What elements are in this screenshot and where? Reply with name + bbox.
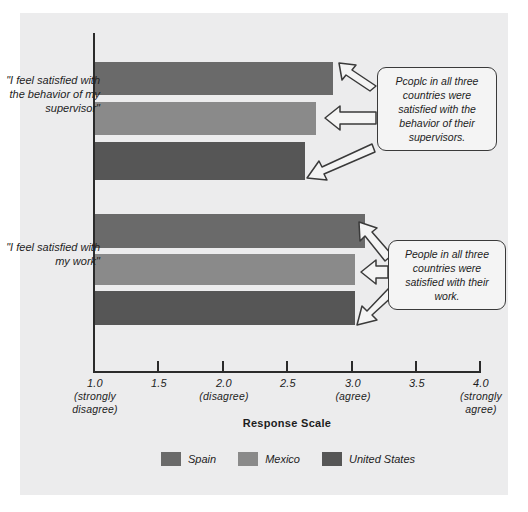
annotation-work: People in all three countries were satis… [388, 240, 506, 310]
arrow-work-mexico [361, 260, 388, 284]
x-tick-value-2-5: 2.5 [280, 377, 296, 389]
x-tick-1-0 [93, 361, 95, 372]
bar-work-united-states [95, 291, 355, 325]
x-tick-3-0 [351, 361, 353, 372]
x-tick-value-3-5: 3.5 [409, 377, 425, 389]
x-tick-value-2-0: 2.0 [216, 377, 232, 389]
legend-item-mexico: Mexico [238, 452, 300, 466]
x-tick-1-5 [157, 361, 159, 372]
legend-swatch-united-states [322, 452, 342, 466]
arrow-supervisor-mexico [325, 106, 376, 130]
x-tick-value-1-0: 1.0 [87, 377, 103, 389]
arrow-supervisor-united-states [307, 144, 375, 180]
legend-label-spain: Spain [188, 453, 216, 465]
legend-item-united-states: United States [322, 452, 415, 466]
x-tick-value-3-0: 3.0 [345, 377, 361, 389]
chart-legend: Spain Mexico United States [93, 452, 483, 466]
x-tick-label-2-5: 2.5 [253, 377, 323, 390]
x-tick-value-1-5: 1.5 [151, 377, 167, 389]
x-tick-sub-4-0: (strongly agree) [446, 390, 516, 415]
plot-area: 1.0 (strongly disagree) 1.5 2.0 (disagre… [0, 0, 528, 512]
bar-work-spain [95, 214, 365, 248]
x-tick-label-1-0: 1.0 (strongly disagree) [60, 377, 130, 415]
x-tick-2-0 [222, 361, 224, 372]
legend-label-united-states: United States [349, 453, 415, 465]
x-tick-4-0 [479, 361, 481, 372]
x-tick-label-3-5: 3.5 [382, 377, 452, 390]
x-tick-sub-1-0: (strongly disagree) [60, 390, 130, 415]
legend-item-spain: Spain [161, 452, 216, 466]
x-axis-title: Response Scale [93, 417, 481, 429]
x-tick-value-4-0: 4.0 [473, 377, 489, 389]
bar-supervisor-mexico [95, 102, 316, 135]
x-tick-label-4-0: 4.0 (strongly agree) [446, 377, 516, 415]
legend-swatch-spain [161, 452, 181, 466]
x-tick-label-2-0: 2.0 (disagree) [189, 377, 259, 403]
x-tick-label-3-0: 3.0 (agree) [318, 377, 388, 403]
bar-supervisor-spain [95, 62, 333, 95]
x-tick-3-5 [415, 361, 417, 372]
legend-swatch-mexico [238, 452, 258, 466]
category-label-work: "I feel satisfied with my work" [0, 240, 100, 268]
bar-work-mexico [95, 254, 355, 285]
annotation-supervisor: Pcoplc in all three countries were satis… [377, 67, 497, 151]
arrow-supervisor-spain [339, 63, 376, 91]
x-tick-label-1-5: 1.5 [124, 377, 194, 390]
chart-page: 1.0 (strongly disagree) 1.5 2.0 (disagre… [0, 0, 528, 512]
x-tick-2-5 [286, 361, 288, 372]
x-tick-sub-2-0: (disagree) [189, 390, 259, 403]
x-tick-sub-3-0: (agree) [318, 390, 388, 403]
category-label-supervisor: "I feel satisfied with the behavior of m… [0, 73, 100, 115]
bar-supervisor-united-states [95, 142, 305, 180]
legend-label-mexico: Mexico [265, 453, 300, 465]
